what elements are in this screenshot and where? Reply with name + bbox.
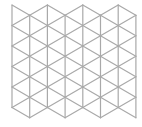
grid-diagonal-line [47, 108, 65, 118]
grid-diagonal-line [83, 15, 101, 25]
grid-diagonal-line [83, 56, 101, 66]
grid-diagonal-line [12, 97, 30, 107]
grid-diagonal-line [101, 56, 119, 66]
grid-diagonal-line [65, 46, 83, 56]
grid-diagonal-line [101, 5, 119, 15]
grid-diagonal-line [101, 67, 119, 77]
grid-diagonal-line [101, 15, 119, 25]
grid-diagonal-line [118, 15, 136, 25]
grid-diagonal-line [12, 46, 30, 56]
grid-diagonal-line [30, 87, 48, 97]
grid-diagonal-line [65, 67, 83, 77]
grid-diagonal-line [30, 5, 48, 15]
grid-diagonal-line [83, 87, 101, 97]
grid-diagonal-line [12, 26, 30, 36]
grid-diagonal-line [65, 5, 83, 15]
grid-diagonal-line [47, 87, 65, 97]
triangle-grid-diagram [0, 0, 142, 127]
grid-diagonal-line [118, 36, 136, 46]
grid-diagonal-line [65, 26, 83, 36]
triangular-lattice [0, 0, 142, 127]
grid-diagonal-line [65, 56, 83, 66]
grid-diagonal-line [101, 26, 119, 36]
grid-diagonal-line [118, 56, 136, 66]
grid-diagonal-line [83, 5, 101, 15]
grid-diagonal-line [12, 77, 30, 87]
grid-diagonal-line [12, 5, 30, 15]
grid-diagonal-line [65, 108, 83, 118]
grid-diagonal-line [65, 97, 83, 107]
grid-diagonal-line [83, 46, 101, 56]
grid-diagonal-line [30, 56, 48, 66]
grid-diagonal-line [118, 77, 136, 87]
grid-diagonal-line [83, 67, 101, 77]
grid-diagonal-line [30, 15, 48, 25]
grid-diagonal-line [118, 26, 136, 36]
grid-diagonal-line [83, 108, 101, 118]
grid-diagonal-line [30, 26, 48, 36]
grid-diagonal-line [47, 5, 65, 15]
grid-diagonal-line [30, 67, 48, 77]
grid-diagonal-line [47, 46, 65, 56]
grid-diagonal-line [83, 77, 101, 87]
grid-diagonal-line [47, 36, 65, 46]
grid-diagonal-line [47, 97, 65, 107]
grid-diagonal-line [30, 77, 48, 87]
grid-diagonal-line [65, 36, 83, 46]
grid-diagonal-line [101, 77, 119, 87]
grid-diagonal-line [101, 46, 119, 56]
grid-diagonal-line [47, 67, 65, 77]
grid-diagonal-line [101, 97, 119, 107]
grid-diagonal-line [118, 5, 136, 15]
grid-diagonal-line [83, 26, 101, 36]
grid-diagonal-line [30, 36, 48, 46]
grid-diagonal-line [118, 97, 136, 107]
grid-diagonal-line [83, 36, 101, 46]
grid-diagonal-line [30, 108, 48, 118]
grid-diagonal-line [101, 36, 119, 46]
grid-diagonal-line [47, 56, 65, 66]
grid-diagonal-line [118, 87, 136, 97]
grid-diagonal-line [47, 26, 65, 36]
grid-diagonal-line [30, 46, 48, 56]
grid-diagonal-line [83, 97, 101, 107]
grid-diagonal-line [65, 87, 83, 97]
grid-diagonal-line [118, 108, 136, 118]
grid-diagonal-line [47, 15, 65, 25]
grid-diagonal-line [12, 15, 30, 25]
grid-diagonal-line [12, 56, 30, 66]
grid-diagonal-line [12, 67, 30, 77]
grid-diagonal-line [12, 36, 30, 46]
grid-diagonal-line [12, 108, 30, 118]
grid-diagonal-line [118, 67, 136, 77]
grid-diagonal-line [12, 87, 30, 97]
grid-diagonal-line [101, 87, 119, 97]
grid-diagonal-line [47, 77, 65, 87]
grid-diagonal-line [65, 15, 83, 25]
grid-diagonal-line [30, 97, 48, 107]
grid-diagonal-line [101, 108, 119, 118]
grid-diagonal-line [118, 46, 136, 56]
grid-diagonal-line [65, 77, 83, 87]
